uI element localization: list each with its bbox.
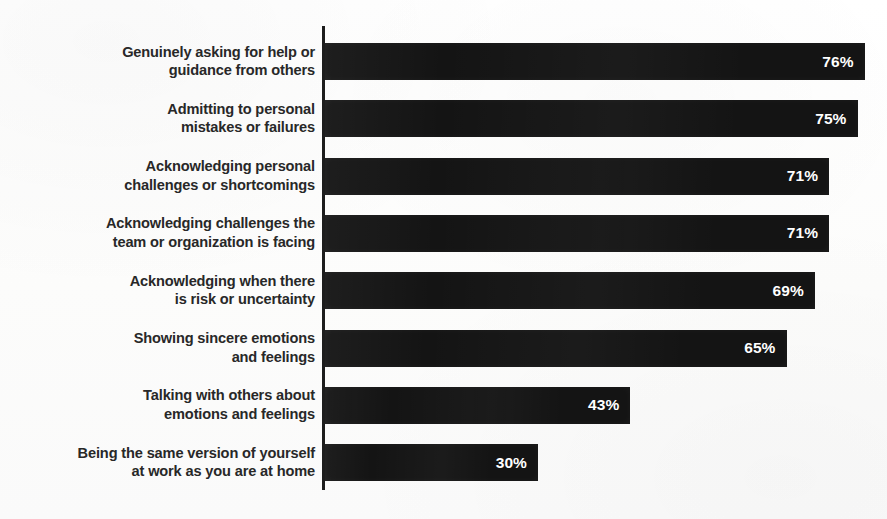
bar-fill: 71% xyxy=(325,158,829,195)
bar-track: 75% xyxy=(325,100,858,137)
bar-row: Acknowledging challenges the team or org… xyxy=(0,215,887,252)
plot-area: Genuinely asking for help or guidance fr… xyxy=(0,0,887,519)
bar-row: Acknowledging when there is risk or unce… xyxy=(0,272,887,309)
bar-value-label: 65% xyxy=(744,339,775,357)
bar-track: 65% xyxy=(325,330,787,367)
bar-category-label: Genuinely asking for help or guidance fr… xyxy=(5,43,315,80)
bar-category-label: Acknowledging personal challenges or sho… xyxy=(5,157,315,194)
bar-category-label: Talking with others about emotions and f… xyxy=(5,387,315,424)
bar-value-label: 30% xyxy=(496,454,527,472)
bar-chart: Genuinely asking for help or guidance fr… xyxy=(0,0,887,519)
bar-row: Acknowledging personal challenges or sho… xyxy=(0,158,887,195)
bar-row: Showing sincere emotions and feelings65% xyxy=(0,330,887,367)
bar-track: 43% xyxy=(325,387,630,424)
bar-row: Being the same version of yourself at wo… xyxy=(0,444,887,481)
bar-category-label: Acknowledging when there is risk or unce… xyxy=(5,272,315,309)
bar-category-label: Showing sincere emotions and feelings xyxy=(5,329,315,366)
bar-track: 71% xyxy=(325,158,829,195)
bar-track: 76% xyxy=(325,43,865,80)
bar-value-label: 71% xyxy=(787,224,818,242)
bar-track: 69% xyxy=(325,272,815,309)
bar-value-label: 43% xyxy=(588,396,619,414)
bar-category-label: Being the same version of yourself at wo… xyxy=(5,444,315,481)
bar-fill: 65% xyxy=(325,330,787,367)
bar-row: Admitting to personal mistakes or failur… xyxy=(0,100,887,137)
bar-fill: 69% xyxy=(325,272,815,309)
bar-track: 30% xyxy=(325,444,538,481)
bar-row: Talking with others about emotions and f… xyxy=(0,387,887,424)
bar-row: Genuinely asking for help or guidance fr… xyxy=(0,43,887,80)
bar-fill: 75% xyxy=(325,100,858,137)
bar-fill: 71% xyxy=(325,215,829,252)
bar-fill: 43% xyxy=(325,387,630,424)
bar-value-label: 75% xyxy=(815,110,846,128)
bar-fill: 76% xyxy=(325,43,865,80)
bar-value-label: 69% xyxy=(773,282,804,300)
bar-category-label: Admitting to personal mistakes or failur… xyxy=(5,100,315,137)
bar-track: 71% xyxy=(325,215,829,252)
bar-value-label: 71% xyxy=(787,167,818,185)
bar-value-label: 76% xyxy=(822,53,853,71)
bar-category-label: Acknowledging challenges the team or org… xyxy=(5,215,315,252)
bar-fill: 30% xyxy=(325,444,538,481)
